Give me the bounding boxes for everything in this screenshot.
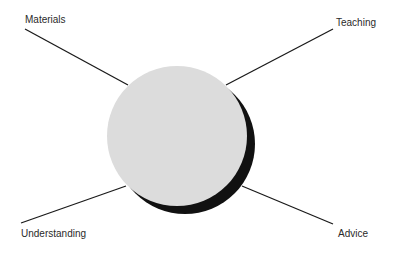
label-understanding: Understanding	[21, 228, 86, 239]
spoke-line-materials	[25, 29, 128, 85]
diagram-canvas	[0, 0, 395, 256]
spoke-line-advice	[242, 186, 333, 224]
spoke-line-teaching	[226, 29, 333, 85]
label-teaching: Teaching	[336, 17, 376, 28]
label-advice: Advice	[338, 228, 368, 239]
label-materials: Materials	[25, 14, 66, 25]
spoke-line-understanding	[21, 186, 126, 223]
center-circle	[107, 66, 247, 206]
